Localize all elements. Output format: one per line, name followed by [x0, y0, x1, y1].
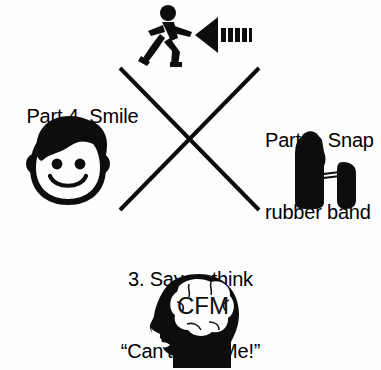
head-with-brain-icon: CFM: [143, 272, 247, 368]
hand-snapping-rubber-band-icon: [288, 128, 364, 210]
smiling-face-icon: [21, 110, 115, 208]
diagram-canvas: Part 4. Smile Part 2. Snap rubber band 3…: [0, 0, 381, 370]
walking-person-with-left-arrow-icon: [134, 4, 252, 68]
brain-text: CFM: [177, 292, 229, 319]
